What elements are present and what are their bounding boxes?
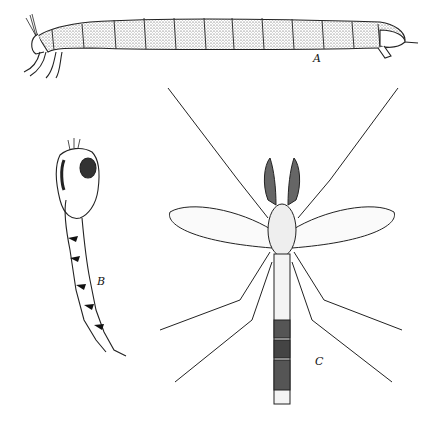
panel-label-b: B	[97, 275, 105, 288]
panel-label-a: A	[313, 52, 321, 65]
pupa-drawing	[56, 138, 126, 356]
adult-drawing	[160, 88, 402, 404]
illustration	[0, 0, 428, 422]
panel-label-c: C	[315, 355, 323, 368]
figure: A B C	[0, 0, 428, 422]
larva-drawing	[24, 14, 418, 78]
